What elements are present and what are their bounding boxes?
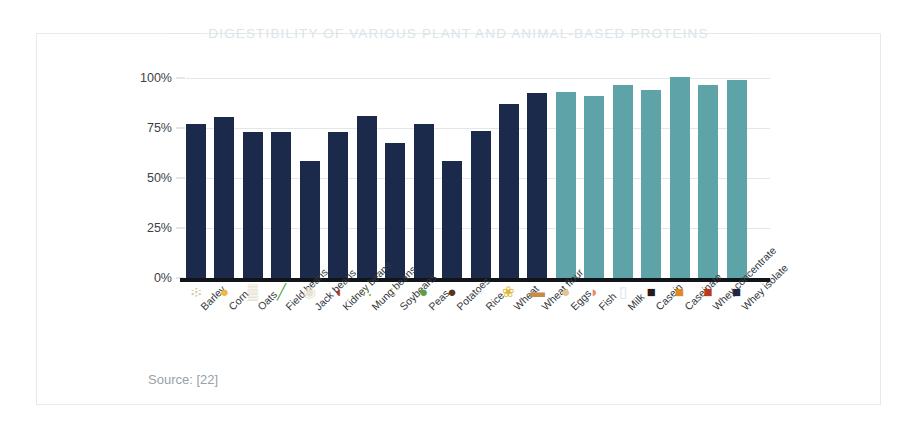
chart-card-frame [36, 33, 881, 405]
title-rule-left [170, 33, 198, 34]
page-title: DIGESTIBILITY OF VARIOUS PLANT AND ANIMA… [208, 26, 708, 41]
source-note: Source: [22] [148, 372, 218, 387]
title-rule-right [719, 33, 747, 34]
chart-title-row: DIGESTIBILITY OF VARIOUS PLANT AND ANIMA… [36, 22, 881, 44]
